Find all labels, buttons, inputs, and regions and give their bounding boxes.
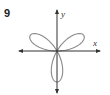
x-axis-label: x — [92, 38, 97, 48]
polar-rose-chart: y x — [0, 0, 110, 95]
y-axis-label: y — [60, 9, 65, 19]
